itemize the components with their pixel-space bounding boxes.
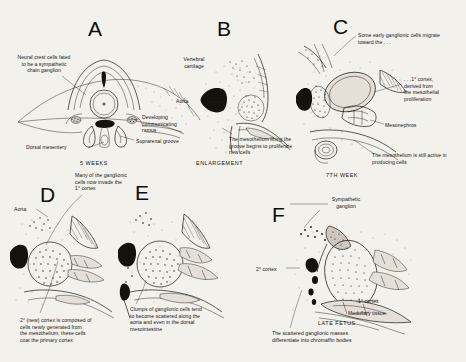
anatomical-figure: A xyxy=(0,0,466,362)
panel-e-leaders xyxy=(110,270,250,330)
panel-letter-b: B xyxy=(217,18,231,39)
panel-f-leaders xyxy=(250,190,466,350)
panel-c-leaders xyxy=(296,24,466,174)
panel-b-leaders xyxy=(166,40,316,170)
panel-letter-e: E xyxy=(135,182,149,203)
